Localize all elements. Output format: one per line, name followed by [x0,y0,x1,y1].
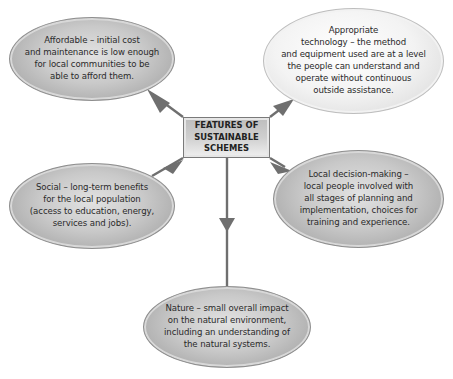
arrowhead-nature-icon [219,218,235,232]
feature-social: Social – long-term benefits for the loca… [9,163,175,249]
feature-appropriate-technology: Appropriate technology – the method and … [263,8,444,114]
feature-appropriate-technology-text: Appropriate technology – the method and … [281,25,426,96]
arrowhead-social-icon [163,160,183,174]
feature-nature: Nature – small overall impact on the nat… [143,286,311,368]
central-topic-box: FEATURES OF SUSTAINABLE SCHEMES [183,117,270,158]
feature-affordable: Affordable – initial cost and maintenanc… [9,17,175,101]
feature-nature-text: Nature – small overall impact on the nat… [164,303,290,351]
feature-social-text: Social – long-term benefits for the loca… [30,182,154,230]
feature-affordable-text: Affordable – initial cost and maintenanc… [25,35,159,83]
central-topic-title: FEATURES OF SUSTAINABLE SCHEMES [194,120,258,155]
feature-local-decision-making-text: Local decision-making – local people inv… [300,169,418,229]
feature-local-decision-making: Local decision-making – local people inv… [273,150,444,248]
arrowhead-affordable-icon [147,89,170,113]
